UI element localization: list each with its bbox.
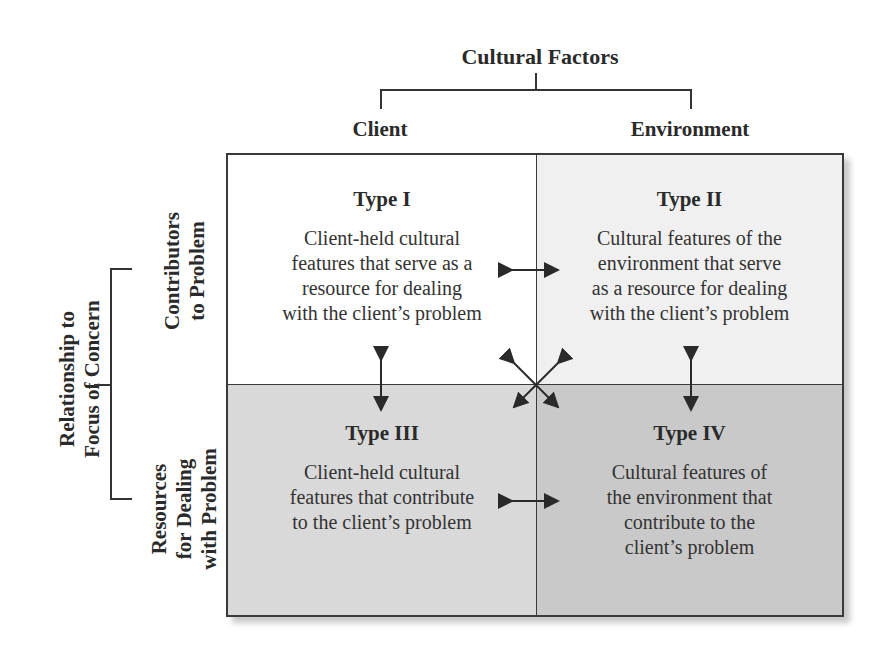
relationship-arrows <box>0 0 890 654</box>
